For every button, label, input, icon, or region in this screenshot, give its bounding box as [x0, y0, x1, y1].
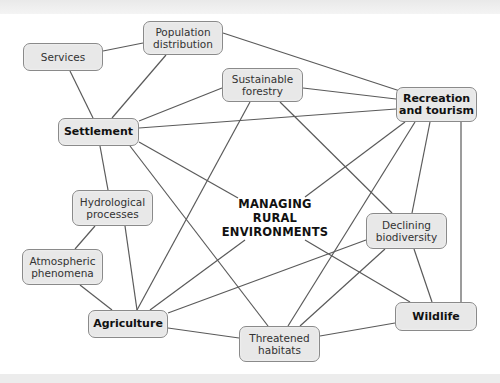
node-label-line: Sustainable — [232, 73, 293, 85]
node-recreation-tourism: Recreation and tourism — [396, 87, 477, 122]
node-label-line: forestry — [232, 85, 293, 97]
node-label-line: Hydrological — [80, 196, 145, 208]
node-label-line: Recreation — [399, 93, 474, 105]
node-settlement: Settlement — [58, 118, 139, 146]
node-label-line: distribution — [153, 38, 213, 50]
node-agriculture: Agriculture — [88, 310, 168, 338]
node-label: Wildlife — [412, 311, 459, 323]
node-label-line: Threatened — [249, 332, 309, 344]
node-sustainable-forestry: Sustainable forestry — [222, 68, 303, 102]
node-label-line: Population — [153, 26, 213, 38]
node-label-line: and tourism — [399, 105, 474, 117]
center-line: ENVIRONMENTS — [215, 225, 335, 239]
node-label: Services — [41, 51, 85, 63]
node-label: Settlement — [64, 126, 133, 138]
node-wildlife: Wildlife — [395, 302, 477, 331]
node-services: Services — [23, 43, 103, 71]
node-label-line: habitats — [249, 344, 309, 356]
bottom-band — [0, 374, 500, 383]
node-threatened-habitats: Threatened habitats — [239, 326, 320, 362]
node-label-line: processes — [80, 208, 145, 220]
node-label-line: biodiversity — [376, 231, 437, 243]
node-population-distribution: Population distribution — [143, 21, 223, 55]
node-hydrological-processes: Hydrological processes — [72, 190, 153, 226]
node-label-line: Atmospheric — [29, 255, 95, 267]
node-label-line: phenomena — [29, 267, 95, 279]
node-declining-biodiversity: Declining biodiversity — [366, 213, 447, 249]
node-label-line: Declining — [376, 219, 437, 231]
node-label: Agriculture — [93, 318, 163, 330]
node-atmospheric-phenomena: Atmospheric phenomena — [22, 249, 103, 285]
center-line: RURAL — [215, 211, 335, 225]
central-concept: MANAGING RURAL ENVIRONMENTS — [215, 197, 335, 239]
center-line: MANAGING — [215, 197, 335, 211]
